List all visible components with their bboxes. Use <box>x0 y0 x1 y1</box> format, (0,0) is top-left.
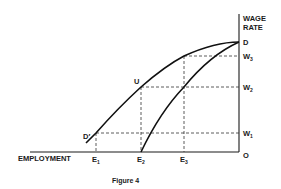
point-label-d: D <box>243 38 249 47</box>
diagram-canvas: WAGE RATE D U D′ W3 W2 W1 O EMPLOYMENT E… <box>0 0 281 189</box>
wage-tick-w2: W2 <box>243 83 253 93</box>
y-axis-label-line2: RATE <box>243 23 263 32</box>
x-axis-label: EMPLOYMENT <box>18 154 71 163</box>
wage-tick-w3: W3 <box>243 52 253 62</box>
employment-tick-e2: E2 <box>137 155 145 165</box>
wage-employment-diagram: WAGE RATE D U D′ W3 W2 W1 O EMPLOYMENT E… <box>0 0 281 189</box>
employment-tick-e3: E3 <box>180 155 188 165</box>
y-axis-label-line1: WAGE <box>243 14 266 23</box>
point-label-d-prime: D′ <box>83 132 90 141</box>
wage-tick-w1: W1 <box>243 129 253 139</box>
outer-demand-curve <box>86 42 239 143</box>
point-label-u: U <box>134 77 139 86</box>
figure-caption: Figure 4 <box>112 177 139 185</box>
origin-label: O <box>243 151 249 160</box>
inner-demand-curve <box>141 42 239 152</box>
employment-tick-e1: E1 <box>92 155 100 165</box>
